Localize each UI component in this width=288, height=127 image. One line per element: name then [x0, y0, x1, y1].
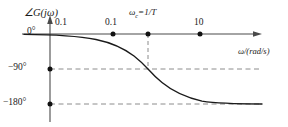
- x-tick-label-ten: 10: [194, 18, 204, 28]
- x-axis-arrow-icon: [253, 31, 262, 37]
- marker-point-minus90: [48, 67, 53, 72]
- marker-point-corner-frequency: [146, 32, 151, 37]
- x-tick-label-first: 0.1: [55, 18, 67, 28]
- x-axis-label: ω/(rad/s): [238, 47, 270, 56]
- x-tick-label-second: 0.1: [105, 18, 117, 28]
- marker-point-minus180: [48, 102, 53, 107]
- y-tick-label-minus90deg: −90°: [8, 63, 27, 73]
- plot-canvas: [0, 0, 288, 127]
- y-tick-label-0deg: 0°: [27, 27, 36, 37]
- marker-point-0.1: [111, 32, 116, 37]
- y-tick-label-minus180deg: −180°: [3, 98, 26, 108]
- y-axis-label: ∠G(jω): [24, 8, 58, 19]
- marker-point-10: [198, 32, 203, 37]
- bode-phase-plot: ∠G(jω) ω/(rad/s) 0° −90° −180° 0.1 0.1 ω…: [0, 0, 288, 127]
- x-tick-label-corner-frequency: ωc=1/T: [129, 8, 156, 19]
